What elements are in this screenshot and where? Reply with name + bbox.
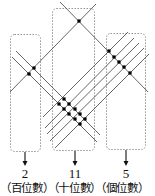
ones-result: 5 bbox=[111, 167, 141, 181]
intersection-dot bbox=[112, 55, 115, 58]
line-r4 bbox=[50, 48, 144, 141]
intersection-dot bbox=[128, 71, 131, 74]
intersection-dot bbox=[78, 122, 81, 125]
line-single bbox=[10, 4, 96, 92]
intersection-dot bbox=[78, 112, 81, 115]
crossing-lines bbox=[10, 2, 149, 148]
line-upper-pair bbox=[16, 51, 100, 135]
ones-box bbox=[107, 34, 146, 150]
result-arrows bbox=[23, 150, 129, 166]
intersection-dot bbox=[77, 19, 80, 22]
intersection-dot bbox=[73, 107, 76, 110]
tens-result: 11 bbox=[60, 167, 90, 181]
place-value-labels: （百位數）（十位數）（個位數） bbox=[0, 181, 149, 195]
line-r5 bbox=[55, 54, 149, 148]
intersection-dot bbox=[27, 72, 30, 75]
intersection-dot bbox=[32, 66, 35, 69]
line-r3 bbox=[47, 43, 139, 134]
intersection-dot bbox=[122, 65, 125, 68]
intersection-dot bbox=[62, 107, 65, 110]
intersection-dots bbox=[27, 19, 131, 125]
intersection-dot bbox=[107, 49, 110, 52]
digit-group-boxes bbox=[11, 9, 146, 152]
hundreds-result: 2 bbox=[10, 167, 40, 181]
intersection-dot bbox=[73, 117, 76, 120]
intersection-dot bbox=[62, 97, 65, 100]
line-lower-pair bbox=[12, 57, 97, 142]
hundreds-box bbox=[11, 35, 41, 152]
intersection-dot bbox=[83, 117, 86, 120]
intersection-dot bbox=[67, 112, 70, 115]
line-r2 bbox=[45, 38, 134, 128]
intersection-dot bbox=[117, 60, 120, 63]
intersection-dot bbox=[57, 102, 60, 105]
intersection-dot bbox=[67, 102, 70, 105]
